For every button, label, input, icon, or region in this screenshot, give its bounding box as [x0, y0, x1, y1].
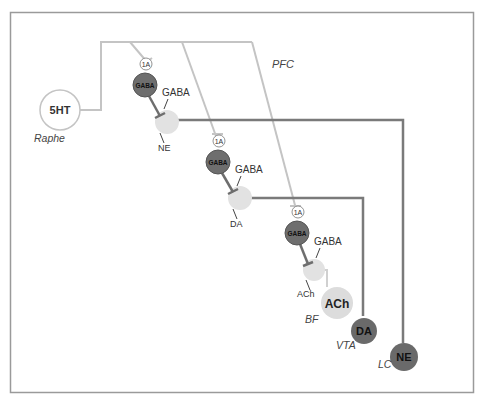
svg-text:GABA: GABA — [287, 230, 306, 237]
svg-text:GABA: GABA — [208, 159, 227, 166]
svg-text:ACh: ACh — [325, 297, 350, 311]
neuromodulation-diagram: PFC GABA 1A — [0, 0, 484, 403]
terminal-label-ach: ACh — [297, 289, 315, 299]
gaba-neuron-3: GABA 1A — [285, 206, 309, 245]
terminal-label-da: DA — [230, 219, 243, 229]
gaba-neuron-2: GABA 1A — [206, 135, 230, 174]
nucleus-ach: ACh — [321, 287, 353, 319]
region-label-lc: LC — [378, 358, 392, 370]
nucleus-ne: NE — [390, 343, 418, 371]
gaba-output-label-3: GABA — [314, 236, 342, 247]
terminal-label-ne: NE — [158, 143, 171, 153]
region-label-vta: VTA — [336, 339, 356, 351]
pfc-label: PFC — [272, 58, 294, 70]
region-label-raphe: Raphe — [34, 132, 65, 144]
region-label-bf: BF — [305, 313, 319, 325]
serotonin-fiber — [80, 42, 296, 209]
svg-text:DA: DA — [356, 325, 372, 337]
svg-text:NE: NE — [396, 351, 411, 363]
nucleus-5ht: 5HT — [40, 90, 80, 130]
svg-text:GABA: GABA — [135, 82, 154, 89]
svg-text:5HT: 5HT — [50, 104, 71, 116]
svg-text:1A: 1A — [215, 138, 224, 145]
svg-text:1A: 1A — [294, 209, 303, 216]
gaba-neuron-1: GABA 1A — [133, 58, 157, 97]
svg-text:1A: 1A — [142, 61, 151, 68]
gaba-output-label-1: GABA — [162, 87, 190, 98]
gaba-output-label-2: GABA — [235, 164, 263, 175]
